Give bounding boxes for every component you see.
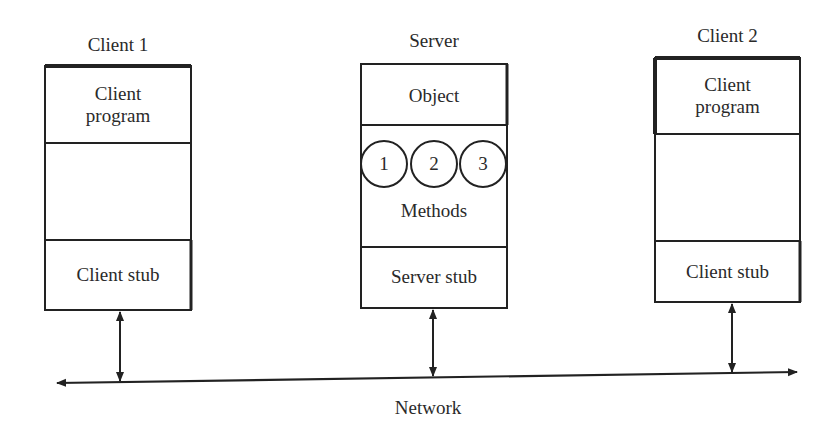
client1-stub-label: Client stub — [45, 264, 191, 286]
method-2-label: 2 — [414, 153, 454, 175]
client1-program-label: Client program — [45, 83, 191, 127]
network-line — [57, 372, 797, 383]
client2-program-label: Client program — [655, 74, 800, 118]
server-title: Server — [361, 30, 507, 52]
client1-title: Client 1 — [45, 34, 191, 56]
method-3-label: 3 — [463, 153, 503, 175]
server-object-label: Object — [361, 85, 507, 107]
network-label: Network — [353, 397, 503, 419]
method-1-label: 1 — [364, 153, 404, 175]
client2-program-line1: Client — [655, 74, 800, 96]
client2-stub-label: Client stub — [655, 261, 800, 283]
server-methods-label: Methods — [361, 200, 507, 222]
client2-program-line2: program — [655, 96, 800, 118]
client2-title: Client 2 — [655, 25, 800, 47]
client1-program-line1: Client — [45, 83, 191, 105]
server-stub-label: Server stub — [361, 266, 507, 288]
client1-program-line2: program — [45, 105, 191, 127]
